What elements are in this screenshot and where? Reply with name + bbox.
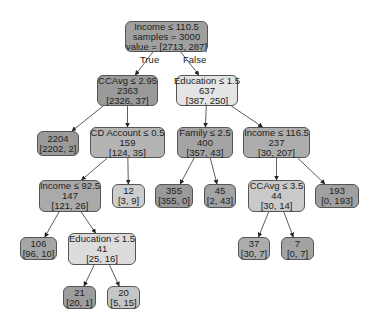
node-text: [387, 250] [186,96,228,106]
tree-edge [110,265,120,286]
node-text: 237 [269,138,285,148]
node-text: [2, 43] [207,196,233,206]
node-text: [5, 15] [110,298,136,308]
tree-edge [45,212,59,237]
node-text: 2204 [47,134,68,144]
node-text: 20 [118,288,129,298]
node-text: [3, 9] [118,196,139,206]
split-node: CCAvg ≤ 2.952363[2326, 37] [97,75,158,106]
node-text: 7 [295,239,300,249]
node-text: [2202, 2] [40,144,77,154]
node-text: [20, 1] [66,298,92,308]
node-text: [25, 16] [86,254,118,264]
node-text: [124, 35] [109,148,146,158]
tree-edge [284,212,293,237]
split-node: Education ≤ 1.541[25, 16] [68,233,136,265]
node-text: [2326, 37] [106,96,148,106]
node-text: Family ≤ 2.5 [179,128,231,138]
node-text: [0, 193] [321,196,353,206]
leaf-node: 21[20, 1] [63,286,96,309]
node-text: [121, 26] [52,201,89,211]
node-text: 637 [199,86,215,96]
node-text: [30, 7] [241,249,267,259]
tree-edge [231,106,262,127]
tree-edge [259,212,269,237]
node-text: [30, 207] [258,148,295,158]
node-text: 21 [74,288,85,298]
leaf-node: 12[3, 9] [112,184,145,208]
leaf-node: 20[5, 15] [107,286,140,309]
leaf-node: 7[0, 7] [281,237,314,260]
leaf-node: 37[30, 7] [238,237,270,260]
leaf-node: 45[2, 43] [204,184,236,208]
node-text: [355, 0] [158,196,190,206]
node-text: 400 [197,138,213,148]
split-node: Family ≤ 2.5400[357, 43] [177,127,233,158]
split-node: CD Account ≤ 0.5159[124, 35] [90,127,165,158]
node-text: [357, 43] [187,148,224,158]
true-edge-label: True [140,54,159,65]
leaf-node: 2204[2202, 2] [37,131,79,156]
leaf-node: 193[0, 193] [315,184,359,208]
leaf-node: 355[355, 0] [155,184,193,208]
node-text: Income ≤ 116.5 [244,128,309,138]
node-text: 159 [120,138,136,148]
false-edge-label: False [183,54,206,65]
tree-edge [84,265,94,286]
node-text: [0, 7] [287,249,308,259]
node-text: Income ≤ 110.5 [134,22,199,32]
node-text: CCAvg ≤ 2.95 [98,76,157,86]
node-text: Education ≤ 1.5 [174,76,240,86]
split-node: Income ≤ 116.5237[30, 207] [243,127,310,158]
node-text: 106 [31,239,47,249]
split-node: Education ≤ 1.5637[387, 250] [176,75,238,106]
split-node: CCAvg ≤ 3.544[30, 14] [248,180,305,212]
split-node: Income ≤ 92.5147[121, 26] [39,180,101,212]
leaf-node: 106[96, 10] [20,237,57,260]
node-text: value = [2713, 287] [126,42,207,52]
tree-edge [81,212,95,233]
node-text: 37 [249,239,260,249]
node-text: [96, 10] [23,249,55,259]
node-text: [30, 14] [261,201,293,211]
split-node: Income ≤ 110.5samples = 3000value = [271… [125,21,208,52]
node-text: 2363 [117,86,138,96]
node-text: samples = 3000 [133,32,200,42]
tree-edge [210,158,217,184]
tree-edge [180,158,194,184]
tree-edge [205,106,206,127]
tree-edge [82,158,108,180]
node-text: CD Account ≤ 0.5 [91,128,165,138]
